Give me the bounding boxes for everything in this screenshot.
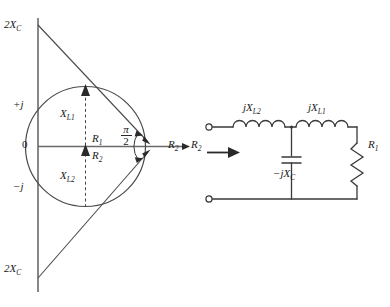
axis-label-real-r2: R2 [168,139,178,153]
resistor-r1-zigzag [351,143,363,186]
vector-label-r2: R2 [92,150,102,164]
angle-label-pi-over-2: π 2 [118,124,134,147]
xl1-vector-arrowhead [81,84,90,96]
figure-canvas [0,0,390,307]
axis-label-negative-imaginary: −j [13,181,23,192]
circuit-label-input-r2: R2 [191,139,201,153]
inductor-xl1-coil [296,121,348,128]
vector-label-xl1: XL1 [60,108,75,122]
circuit-label-resistor-r1: R1 [368,139,378,153]
lower-diagonal-line [38,152,148,278]
vector-label-xl2: XL2 [60,170,75,184]
equivalent-circuit [206,121,363,203]
axis-label-origin: 0 [22,139,28,150]
axis-label-bottom-2xc: 2XC [4,263,21,277]
inductor-xl2-coil [233,121,285,128]
impedance-circle-diagram [26,18,191,292]
circuit-node-junction [290,125,293,128]
lower-diagonal-arrowhead [142,150,150,158]
input-terminal-top [206,124,212,130]
input-terminal-bottom [206,196,212,202]
circuit-label-inductor-xl1: jXL1 [308,102,326,116]
circuit-label-capacitor-xc: −jXC [273,168,295,182]
input-direction-arrow [207,147,240,158]
real-axis-arrowhead [182,143,190,150]
vector-label-r1: R1 [92,133,102,147]
circuit-label-inductor-xl2: jXL2 [243,102,261,116]
axis-label-top-2xc: 2XC [4,19,21,33]
axis-label-positive-imaginary: +j [13,99,23,110]
